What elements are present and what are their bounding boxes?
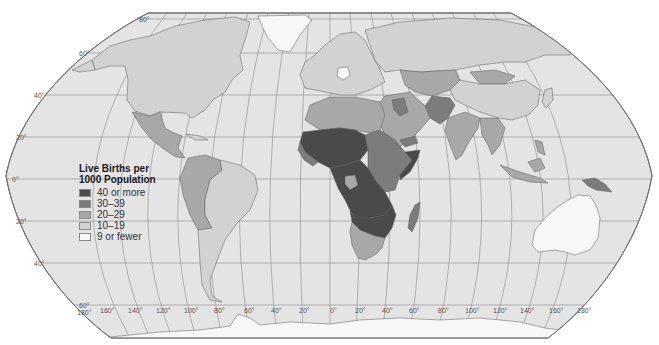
longitude-label: 100° <box>184 307 198 314</box>
longitude-label: 20° <box>299 307 310 314</box>
longitude-label: 20° <box>355 307 366 314</box>
longitude-label: 160° <box>549 307 563 314</box>
longitude-label: 80° <box>438 307 449 314</box>
legend-label: 40 or more <box>97 187 145 198</box>
latitude-label: 40° <box>34 260 45 267</box>
legend-title-line-2: 1000 Population <box>79 174 156 185</box>
latitude-label: 20° <box>16 134 27 141</box>
latitude-label: 60° <box>79 302 90 309</box>
longitude-label: 100° <box>465 307 479 314</box>
legend-swatch <box>79 233 91 241</box>
legend-swatch <box>79 189 91 197</box>
map-legend: Live Births per 1000 Population 40 or mo… <box>79 163 156 242</box>
legend-title-line-1: Live Births per <box>79 163 156 174</box>
legend-item-10-19: 10–19 <box>79 220 156 231</box>
legend-label: 9 or fewer <box>97 231 141 242</box>
legend-swatch <box>79 222 91 230</box>
latitude-label: 40° <box>34 92 45 99</box>
legend-label: 20–29 <box>97 209 125 220</box>
legend-swatch <box>79 211 91 219</box>
legend-item-20-29: 20–29 <box>79 209 156 220</box>
latitude-label: 0° <box>12 176 19 183</box>
longitude-label: 120° <box>493 307 507 314</box>
latitude-label: 80° <box>139 16 150 23</box>
legend-list: 40 or more 30–39 20–29 10–19 9 or fewer <box>79 187 156 242</box>
longitude-label: 80° <box>214 307 225 314</box>
longitude-label: 0° <box>330 307 337 314</box>
longitude-label: 160° <box>100 307 114 314</box>
longitude-label-180-west: 180° <box>77 309 91 316</box>
region-north-africa <box>305 97 385 133</box>
longitude-label: 40° <box>382 307 393 314</box>
longitude-label: 180° <box>577 307 591 314</box>
legend-item-9-or-fewer: 9 or fewer <box>79 231 156 242</box>
legend-label: 10–19 <box>97 220 125 231</box>
legend-item-30-39: 30–39 <box>79 198 156 209</box>
longitude-label: 140° <box>128 307 142 314</box>
longitude-label: 140° <box>520 307 534 314</box>
legend-item-40-plus: 40 or more <box>79 187 156 198</box>
legend-title: Live Births per 1000 Population <box>79 163 156 185</box>
longitude-label: 120° <box>156 307 170 314</box>
latitude-label: 60° <box>79 50 90 57</box>
legend-label: 30–39 <box>97 198 125 209</box>
longitude-label: 60° <box>244 307 255 314</box>
longitude-label: 40° <box>271 307 282 314</box>
latitude-label: 20° <box>16 218 27 225</box>
legend-swatch <box>79 200 91 208</box>
longitude-label: 60° <box>409 307 420 314</box>
